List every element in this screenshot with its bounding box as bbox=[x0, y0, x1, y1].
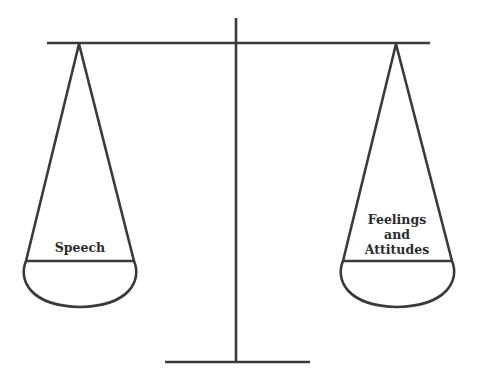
scale-drawing bbox=[0, 0, 479, 383]
right-pan-label: Feelings and Attitudes bbox=[352, 212, 442, 257]
right-pan-bowl bbox=[341, 261, 454, 307]
left-pan bbox=[24, 44, 137, 307]
right-pan bbox=[341, 44, 454, 307]
left-pan-cone bbox=[26, 44, 134, 261]
left-pan-bowl bbox=[24, 261, 137, 307]
left-pan-label: Speech bbox=[40, 240, 120, 255]
